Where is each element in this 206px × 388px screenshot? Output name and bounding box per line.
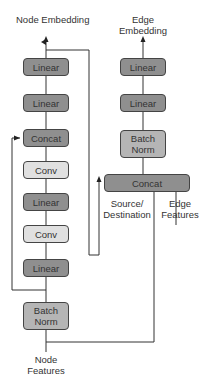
block-label: Concat xyxy=(31,133,61,144)
block-label: Linear xyxy=(130,98,156,109)
block-label: Concat xyxy=(132,178,162,189)
node-linear-block-3: Linear xyxy=(23,193,69,211)
edge-linear-block-1: Linear xyxy=(120,58,166,76)
edge-batchnorm-block: Batch Norm xyxy=(120,130,166,158)
edge-linear-block-2: Linear xyxy=(120,94,166,112)
edge-concat-block: Concat xyxy=(104,174,190,192)
node-features-label: Node Features xyxy=(16,354,76,376)
node-conv-block-2: Conv xyxy=(23,225,69,243)
node-embedding-label: Node Embedding xyxy=(16,14,76,25)
node-batchnorm-block: Batch Norm xyxy=(23,302,69,330)
block-label: Batch Norm xyxy=(29,305,63,327)
edge-features-label: Edge Features xyxy=(158,198,202,220)
block-label: Batch Norm xyxy=(126,133,160,155)
block-label: Linear xyxy=(130,62,156,73)
edge-embedding-label: Edge Embedding xyxy=(113,14,173,36)
node-linear-block-4: Linear xyxy=(23,259,69,277)
source-destination-label: Source/ Destination xyxy=(100,198,154,220)
block-label: Linear xyxy=(33,62,59,73)
block-label: Linear xyxy=(33,197,59,208)
block-label: Linear xyxy=(33,98,59,109)
node-concat-block: Concat xyxy=(23,129,69,147)
node-conv-block-1: Conv xyxy=(23,161,69,179)
block-label: Conv xyxy=(35,165,57,176)
block-label: Linear xyxy=(33,263,59,274)
block-label: Conv xyxy=(35,229,57,240)
node-linear-block-1: Linear xyxy=(23,58,69,76)
node-linear-block-2: Linear xyxy=(23,94,69,112)
